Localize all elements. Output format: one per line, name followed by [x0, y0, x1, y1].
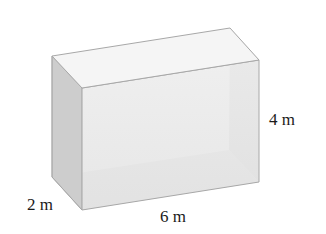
length-label: 6 m	[160, 208, 186, 225]
depth-label: 2 m	[27, 196, 53, 213]
height-label: 4 m	[269, 111, 295, 128]
